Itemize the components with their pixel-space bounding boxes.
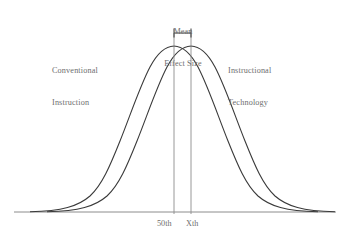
conventional-instruction-label-line2: Instruction <box>52 98 132 109</box>
instructional-technology-label-line1: Instructional <box>228 66 318 77</box>
axis-tick-label-xth: Xth <box>186 219 198 229</box>
mean-effect-size-label-line2: Effect Size <box>148 59 218 70</box>
instructional-technology-label: Instructional Technology <box>228 45 318 129</box>
axis-tick-label-50th: 50th <box>157 219 172 229</box>
instructional-technology-label-line2: Technology <box>228 98 318 109</box>
conventional-instruction-label: Conventional Instruction <box>52 45 132 129</box>
mean-effect-size-label-line1: Mean <box>148 27 218 38</box>
effect-size-distribution-figure: Mean Effect Size Conventional Instructio… <box>0 0 350 245</box>
mean-effect-size-label: Mean Effect Size <box>148 6 218 90</box>
conventional-instruction-label-line1: Conventional <box>52 66 132 77</box>
